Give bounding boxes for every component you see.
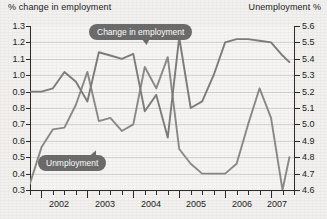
x-tick-label: 2007	[267, 199, 287, 209]
x-tick-label: 2006	[232, 199, 252, 209]
right-tick	[295, 190, 300, 191]
right-tick-label: 5.2	[302, 88, 315, 97]
x-tick-minor	[214, 191, 215, 195]
employment-line	[30, 37, 289, 137]
right-tick-label: 5.1	[302, 104, 315, 113]
x-tick-minor	[64, 191, 65, 195]
left-tick-label: 0.8	[4, 104, 25, 113]
right-tick	[295, 59, 300, 60]
left-tick-label: 0.5	[4, 153, 25, 162]
x-tick-major	[41, 191, 42, 198]
x-tick-minor	[294, 191, 295, 195]
right-tick-label: 4.7	[302, 170, 315, 179]
right-axis-title: Unemployment %	[249, 2, 321, 12]
left-tick-label: 1.3	[4, 22, 25, 31]
employment-callout-label: Change in employment	[97, 27, 184, 37]
left-tick-label: 1.1	[4, 55, 25, 64]
left-tick-label: 0.3	[4, 186, 25, 195]
x-tick-minor	[248, 191, 249, 195]
x-tick-major	[179, 191, 180, 198]
x-tick-minor	[156, 191, 157, 195]
employment-callout: Change in employment	[89, 24, 192, 40]
right-tick	[295, 174, 300, 175]
x-tick-minor	[110, 191, 111, 195]
x-tick-minor	[145, 191, 146, 195]
x-tick-minor	[53, 191, 54, 195]
left-tick-label: 0.9	[4, 88, 25, 97]
left-tick-label: 0.4	[4, 170, 25, 179]
x-tick-major	[133, 191, 134, 198]
x-tick-minor	[30, 191, 31, 195]
right-tick	[295, 26, 300, 27]
right-tick-label: 5.4	[302, 55, 315, 64]
right-tick-label: 5.6	[302, 22, 315, 31]
unemployment-callout: Unmployment	[38, 155, 106, 171]
x-tick-major	[87, 191, 88, 198]
x-tick-label: 2005	[186, 199, 206, 209]
right-tick	[295, 42, 300, 43]
right-tick	[295, 108, 300, 109]
unemployment-callout-label: Unmployment	[46, 158, 98, 168]
x-axis-line	[30, 190, 295, 191]
x-tick-minor	[283, 191, 284, 195]
left-tick-label: 1.0	[4, 71, 25, 80]
x-tick-label: 2004	[141, 199, 161, 209]
x-tick-minor	[237, 191, 238, 195]
right-tick	[295, 92, 300, 93]
right-tick	[295, 75, 300, 76]
x-tick-minor	[260, 191, 261, 195]
left-tick-label: 0.7	[4, 120, 25, 129]
right-tick	[295, 141, 300, 142]
x-tick-label: 2003	[95, 199, 115, 209]
right-tick-label: 5.0	[302, 120, 315, 129]
right-tick-label: 5.3	[302, 71, 315, 80]
x-tick-major	[225, 191, 226, 198]
right-tick-label: 4.9	[302, 137, 315, 146]
x-tick-major	[271, 191, 272, 198]
right-tick	[295, 124, 300, 125]
right-tick-label: 4.8	[302, 153, 315, 162]
right-tick-label: 4.6	[302, 186, 315, 195]
x-tick-label: 2002	[49, 199, 69, 209]
x-tick-minor	[99, 191, 100, 195]
left-axis-title: % change in employment	[8, 2, 111, 12]
employment-unemployment-chart: % change in employment Unemployment % 1.…	[0, 0, 327, 219]
left-tick-label: 1.2	[4, 38, 25, 47]
x-tick-minor	[202, 191, 203, 195]
x-tick-minor	[168, 191, 169, 195]
x-tick-minor	[76, 191, 77, 195]
right-tick-label: 5.5	[302, 38, 315, 47]
x-tick-minor	[191, 191, 192, 195]
right-tick	[295, 157, 300, 158]
left-tick-label: 0.6	[4, 137, 25, 146]
x-tick-minor	[122, 191, 123, 195]
